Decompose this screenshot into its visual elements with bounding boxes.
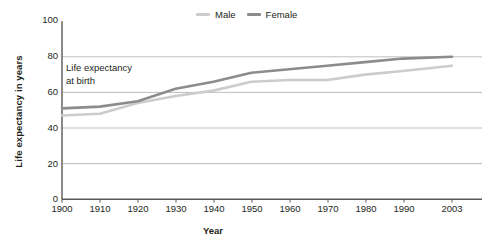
legend-label-male: Male [215,9,236,20]
x-tick-1980: 1980 [355,203,376,214]
chart-legend: Male Female [196,9,297,20]
x-tick-1920: 1920 [127,203,148,214]
annotation-line-1: Life expectancy [66,62,132,75]
chart-annotation: Life expectancy at birth [66,62,132,87]
legend-swatch-male-icon [196,13,210,16]
legend-label-female: Female [266,9,298,20]
x-tick-1900: 1900 [51,203,72,214]
legend-swatch-female-icon [247,13,261,16]
legend-item-female[interactable]: Female [247,9,298,20]
x-tick-1910: 1910 [89,203,110,214]
life-expectancy-chart: Life expectancy in years 100 80 60 40 20… [0,0,490,244]
legend-item-male[interactable]: Male [196,9,236,20]
annotation-line-2: at birth [66,75,132,88]
x-tick-1990: 1990 [393,203,414,214]
x-tick-1930: 1930 [165,203,186,214]
x-tick-2003: 2003 [441,203,462,214]
x-tick-1960: 1960 [279,203,300,214]
x-tick-1950: 1950 [241,203,262,214]
x-axis-title: Year [0,225,490,236]
axis-lines [62,21,482,199]
x-axis-title-text: Year [203,225,223,236]
x-tick-1940: 1940 [203,203,224,214]
x-tick-1970: 1970 [317,203,338,214]
